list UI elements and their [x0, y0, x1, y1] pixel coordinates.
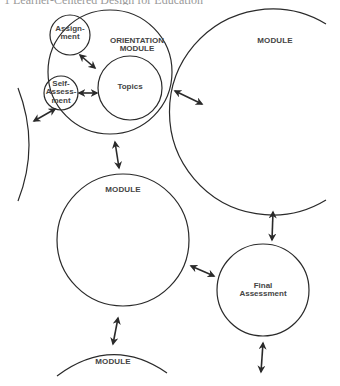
module-bottom-label: MODULE: [88, 358, 138, 366]
final-assessment-label-line2: Assessment: [233, 290, 293, 298]
arrow-right-final: [272, 212, 273, 240]
module-middle-label: MODULE: [98, 186, 148, 194]
assignment-label-line2: ment: [52, 33, 88, 41]
arrow-orientation-middle: [115, 142, 119, 168]
arrow-middle-final: [191, 266, 214, 276]
arrow-orientation-left: [34, 109, 55, 121]
final-assessment-label: Final Assessment: [233, 282, 293, 299]
orientation-module-label: ORIENTATION MODULE: [100, 37, 174, 54]
topics-label: Topics: [108, 83, 152, 91]
module-right-label: MODULE: [250, 37, 300, 45]
arrow-middle-bottom: [113, 318, 118, 344]
module-right-circle: [169, 9, 326, 215]
arrow-final-below: [261, 343, 263, 372]
arrow-orientation-right: [175, 91, 202, 104]
self-assessment-label: Self- Assess- ment: [43, 80, 79, 105]
assignment-label: Assign- ment: [52, 25, 88, 42]
self-assessment-label-line3: ment: [43, 97, 79, 105]
arrow-assignment-topics: [80, 55, 95, 68]
orientation-label-line2: MODULE: [100, 45, 174, 53]
module-left-arc: [18, 88, 29, 201]
module-diagram: [0, 0, 340, 386]
